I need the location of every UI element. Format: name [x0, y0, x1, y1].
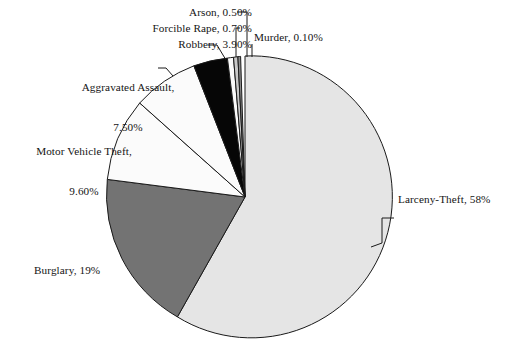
pie-chart: Arson, 0.50% Forcible Rape, 0.70% Robber… [0, 0, 510, 349]
pie-label-robbery: Robbery, 3.90% [118, 38, 252, 51]
pie-label-motor-vehicle-theft: Motor Vehicle Theft, 9.60% [6, 118, 162, 225]
pie-label-motor-vehicle-theft-line1: Motor Vehicle Theft, [6, 145, 162, 158]
pie-label-arson: Arson, 0.50% [132, 6, 252, 19]
pie-label-burglary: Burglary, 19% [34, 264, 144, 277]
pie-label-murder: Murder, 0.10% [254, 31, 364, 44]
pie-label-forcible-rape: Forcible Rape, 0.70% [106, 22, 252, 35]
pie-label-larceny-theft: Larceny-Theft, 58% [398, 193, 508, 206]
pie-label-motor-vehicle-theft-line2: 9.60% [6, 185, 162, 198]
pie-label-aggravated-assault-line1: Aggravated Assault, [52, 81, 204, 94]
